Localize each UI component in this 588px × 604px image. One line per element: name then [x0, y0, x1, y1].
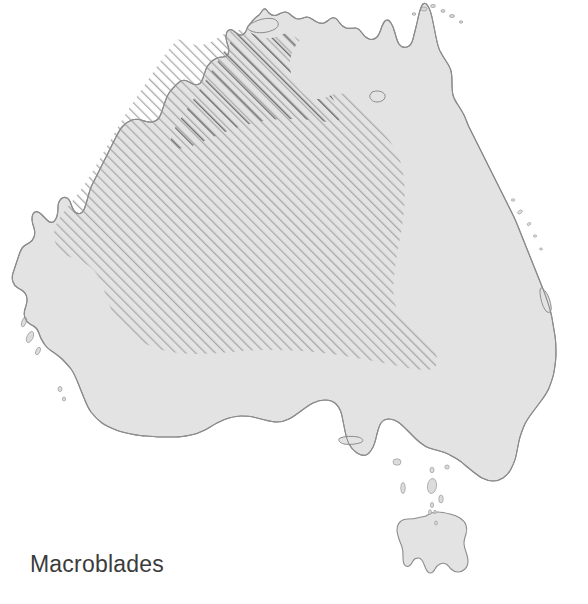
- tasmania: [397, 512, 468, 573]
- kangaroo-island: [339, 436, 363, 444]
- map-caption: Macroblades: [30, 551, 164, 577]
- australia-map: [0, 0, 588, 604]
- groote-eylandt: [370, 91, 385, 102]
- victoria-coastal-islets: [393, 459, 449, 469]
- distribution-map-figure: Macroblades: [0, 0, 588, 604]
